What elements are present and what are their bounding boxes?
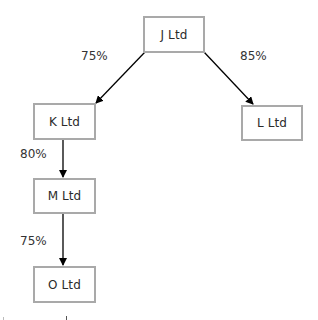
edge-k-to-m-percentage: 80% [20,148,47,160]
node-k-ltd: K Ltd [33,103,96,140]
node-l-ltd-label: L Ltd [257,116,287,130]
node-k-ltd-label: K Ltd [49,115,80,129]
edge-j-to-l-percentage: 85% [240,50,267,62]
node-j-ltd: J Ltd [143,16,205,53]
edge-j-to-k-percentage: 75% [81,50,108,62]
node-m-ltd-label: M Ltd [48,189,82,203]
node-o-ltd: O Ltd [33,266,96,303]
node-m-ltd: M Ltd [33,178,96,214]
node-j-ltd-label: J Ltd [161,28,188,42]
node-l-ltd: L Ltd [241,105,303,141]
node-o-ltd-label: O Ltd [48,278,81,292]
edge-m-to-o-percentage: 75% [20,235,47,247]
clipped-mark [66,316,67,320]
